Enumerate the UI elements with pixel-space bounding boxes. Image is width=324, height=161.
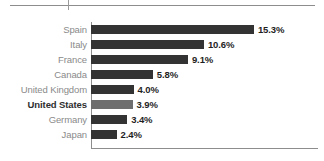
x-axis-line: [91, 148, 318, 149]
bar-category-label: United States: [0, 100, 91, 110]
bar-row: Japan2.4%: [0, 127, 324, 142]
horizontal-bar-chart: Spain15.3%Italy10.6%France9.1%Canada5.8%…: [0, 16, 324, 161]
bar: [91, 100, 133, 109]
top-divider-rule: [0, 0, 324, 16]
bar-category-label: Germany: [0, 115, 91, 125]
bar-track: 5.8%: [91, 67, 324, 82]
bar: [91, 25, 254, 34]
bar-category-label: Italy: [0, 40, 91, 50]
bar-category-label: United Kingdom: [0, 85, 91, 95]
bar-track: 3.4%: [91, 112, 324, 127]
bar-value-label: 3.9%: [137, 100, 158, 110]
bar-row: Spain15.3%: [0, 22, 324, 37]
bar-row: France9.1%: [0, 52, 324, 67]
bar-rows: Spain15.3%Italy10.6%France9.1%Canada5.8%…: [0, 22, 324, 142]
bar-track: 4.0%: [91, 82, 324, 97]
bar: [91, 115, 127, 124]
bar-value-label: 3.4%: [131, 115, 152, 125]
bar-row: United States3.9%: [0, 97, 324, 112]
bar-value-label: 5.8%: [157, 70, 178, 80]
bar-row: United Kingdom4.0%: [0, 82, 324, 97]
bar: [91, 70, 153, 79]
bar: [91, 85, 134, 94]
bar-category-label: Canada: [0, 70, 91, 80]
bar-track: 3.9%: [91, 97, 324, 112]
bar: [91, 130, 117, 139]
bar-value-label: 9.1%: [192, 55, 213, 65]
bar-track: 2.4%: [91, 127, 324, 142]
bar-track: 9.1%: [91, 52, 324, 67]
bar: [91, 55, 188, 64]
bar: [91, 40, 204, 49]
bar-value-label: 10.6%: [208, 40, 234, 50]
bar-category-label: Japan: [0, 130, 91, 140]
bar-row: Germany3.4%: [0, 112, 324, 127]
bar-category-label: France: [0, 55, 91, 65]
horizontal-rule: [10, 5, 315, 6]
bar-track: 10.6%: [91, 37, 324, 52]
bar-row: Canada5.8%: [0, 67, 324, 82]
bar-row: Italy10.6%: [0, 37, 324, 52]
bar-value-label: 2.4%: [121, 130, 142, 140]
bar-value-label: 15.3%: [258, 25, 284, 35]
bar-track: 15.3%: [91, 22, 324, 37]
rule-tick-mark: [68, 0, 69, 10]
bar-value-label: 4.0%: [138, 85, 159, 95]
bar-category-label: Spain: [0, 25, 91, 35]
